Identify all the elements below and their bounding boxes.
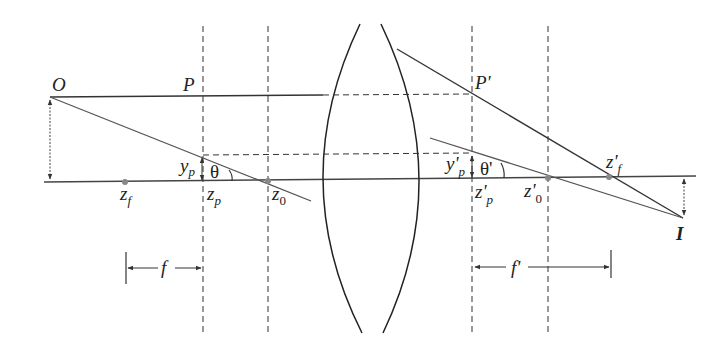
label-I: I — [675, 223, 684, 244]
label-P-prime: P' — [474, 72, 492, 93]
label-y-prime-p: y'p — [444, 153, 466, 179]
label-z-0: z0 — [271, 183, 286, 208]
label-z-prime-0: z'0 — [523, 180, 542, 206]
theta-prime-arc — [501, 163, 504, 178]
label-z-p: zp — [206, 183, 221, 208]
label-f: f — [161, 257, 169, 278]
label-theta: θ — [210, 161, 219, 182]
label-f-prime: f' — [511, 257, 521, 278]
yp-dashed — [203, 153, 472, 155]
label-theta-prime: θ' — [480, 158, 493, 179]
point-z-prime-0 — [545, 175, 551, 181]
label-z-prime-p: z'p — [474, 181, 493, 207]
label-P: P — [182, 74, 195, 95]
label-y-p: yp — [178, 155, 195, 179]
ray-parallel-object — [50, 95, 323, 97]
theta-arc — [229, 170, 232, 181]
point-z-prime-f — [606, 174, 612, 180]
label-z-f: zf — [119, 183, 133, 208]
point-z-0 — [265, 178, 271, 184]
thick-lens-diagram: O P P' I yp θ y'p θ' zf zp z0 z'p z'0 z'… — [0, 0, 726, 355]
label-O: O — [52, 74, 66, 95]
ray-parallel-dashed — [323, 94, 472, 95]
optical-axis — [44, 176, 696, 182]
label-z-prime-f: z'f — [605, 151, 623, 176]
